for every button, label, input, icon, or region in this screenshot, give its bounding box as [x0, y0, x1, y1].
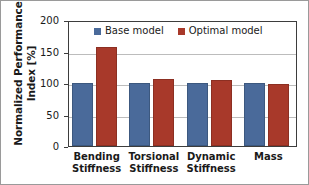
x-tick-label-line-1: Torsional	[128, 151, 179, 162]
x-tick-label-line-1: Mass	[254, 151, 283, 162]
x-tick-label: Mass	[234, 151, 302, 163]
bar-base-model	[129, 83, 150, 146]
bar-optimal-model	[268, 84, 289, 146]
bar-optimal-model	[153, 79, 174, 146]
bar-base-model	[72, 83, 93, 146]
legend-swatch-icon	[178, 28, 185, 35]
y-tick-mark	[64, 147, 68, 148]
bar-chart-figure: Normalized Performance Index [%] 2001501…	[0, 0, 309, 185]
bar-group	[126, 22, 183, 146]
x-tick-label-line-1: Bending	[73, 151, 119, 162]
bar-optimal-model	[211, 80, 232, 146]
y-tick-label: 50	[25, 111, 59, 121]
y-tick-label: 0	[25, 142, 59, 152]
bar-group	[241, 22, 298, 146]
bar-base-model	[244, 83, 265, 146]
y-axis-title-line-1: Normalized Performance	[12, 1, 24, 145]
bar-group	[69, 22, 126, 146]
bar-series-container	[69, 22, 296, 146]
legend-item: Optimal model	[178, 26, 263, 36]
chart-legend: Base modelOptimal model	[94, 26, 263, 36]
bar-group	[184, 22, 241, 146]
legend-item: Base model	[94, 26, 164, 36]
legend-swatch-icon	[94, 28, 101, 35]
bar-optimal-model	[96, 47, 117, 146]
x-tick-label-line-1: Dynamic	[187, 151, 235, 162]
legend-label: Optimal model	[189, 26, 263, 36]
x-tick-label-line-2: Stiffness	[177, 163, 245, 175]
y-tick-label: 200	[25, 16, 59, 26]
y-tick-label: 100	[25, 79, 59, 89]
bar-base-model	[187, 83, 208, 146]
y-tick-label: 150	[25, 48, 59, 58]
plot-area	[68, 21, 297, 147]
legend-label: Base model	[105, 26, 164, 36]
